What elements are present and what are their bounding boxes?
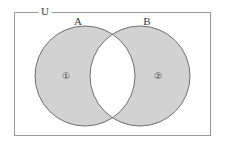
region-two-marker: ② [154, 71, 162, 81]
region-one-marker: ① [62, 71, 70, 81]
venn-diagram-figure: U A B ① ② [0, 0, 225, 148]
venn-diagram-canvas: U A B ① ② [0, 0, 225, 148]
set-a-label: A [74, 15, 82, 27]
set-b-label: B [143, 15, 150, 27]
universe-label: U [41, 5, 49, 17]
